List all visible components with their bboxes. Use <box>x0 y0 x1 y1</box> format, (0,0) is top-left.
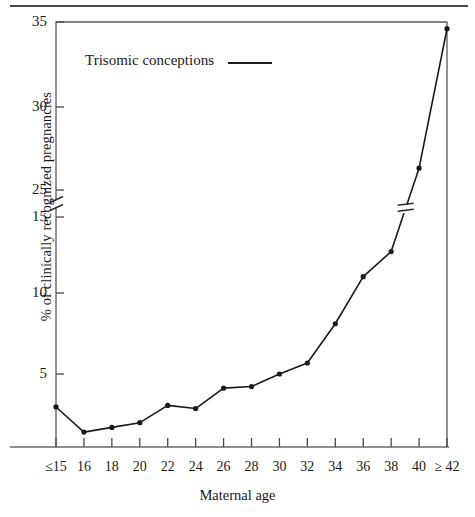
data-point <box>81 429 86 434</box>
series-line-trisomic-conceptions <box>56 29 447 432</box>
data-point <box>193 406 198 411</box>
line-break-marker <box>398 203 414 213</box>
data-point <box>249 384 254 389</box>
axis-frame <box>10 22 449 447</box>
data-point <box>109 425 114 430</box>
data-point <box>221 386 226 391</box>
data-point <box>416 166 421 171</box>
x-tick-label: ≥ 42 <box>423 460 471 474</box>
legend-line-swatch <box>228 62 272 64</box>
figure-container: 51015253035 ≤151618202224262830323436384… <box>0 0 475 517</box>
data-point <box>361 274 366 279</box>
x-axis-ticks <box>56 438 447 447</box>
y-tick-label: 5 <box>7 366 47 381</box>
y-tick-label: 35 <box>7 14 47 29</box>
data-point <box>333 321 338 326</box>
data-point <box>165 403 170 408</box>
data-point <box>53 404 58 409</box>
legend-label: Trisomic conceptions <box>85 52 214 69</box>
data-point <box>137 420 142 425</box>
data-point <box>305 360 310 365</box>
series-markers-trisomic-conceptions <box>53 26 449 435</box>
data-point <box>389 249 394 254</box>
x-axis-title: Maternal age <box>0 487 475 504</box>
chart-plot-area <box>0 0 475 517</box>
y-axis-title: % of clinically recognized pregnancies <box>38 87 55 327</box>
data-point <box>444 26 449 31</box>
data-point <box>277 371 282 376</box>
